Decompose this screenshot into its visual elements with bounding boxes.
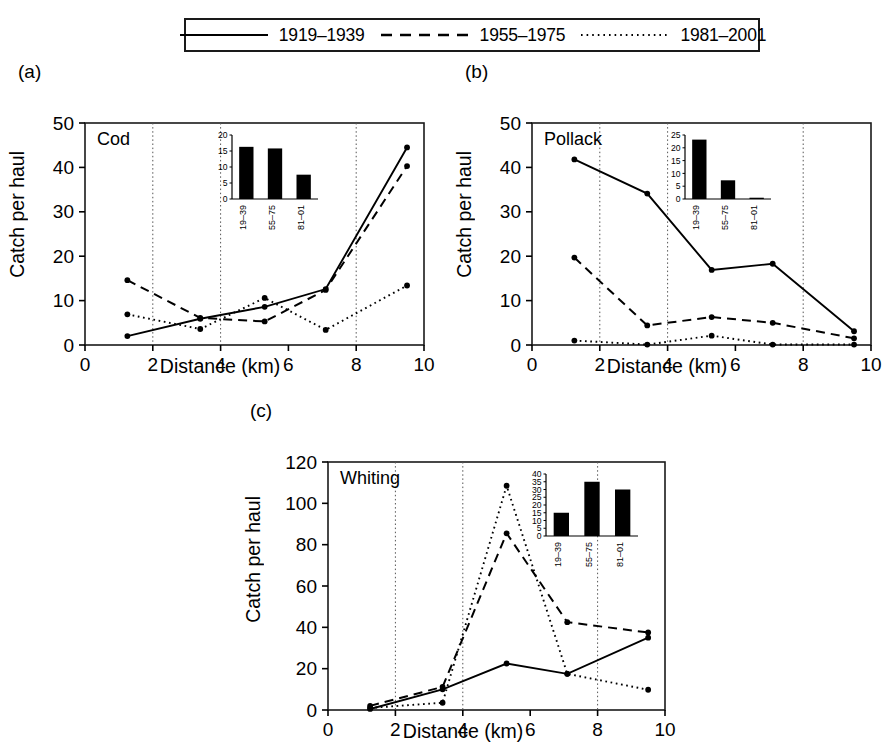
legend-entry-1919-1939: 1919–1939: [178, 25, 365, 46]
inset-category-label: 19–39: [691, 205, 701, 230]
data-point: [770, 320, 776, 326]
data-point: [404, 283, 410, 289]
dotted-line-icon: [579, 28, 671, 42]
data-point: [564, 671, 570, 677]
svg-b-frame: 024681001020304050Pollack051015202519–39…: [447, 55, 887, 385]
data-point: [645, 687, 651, 693]
inset-bar-chart: 051015202519–3955–7581–01: [671, 130, 771, 230]
chart-legend: 1919–1939 1955–1975 1981–2001: [184, 18, 760, 52]
data-point: [709, 333, 715, 339]
inset-bar: [692, 140, 706, 199]
legend-entry-1981-2001: 1981–2001: [579, 25, 766, 46]
data-point: [770, 261, 776, 267]
inset-ytick-10: 10: [671, 169, 681, 179]
data-point: [851, 342, 857, 348]
svg-c-frame: 0246810020406080100120Whiting05101520253…: [228, 392, 688, 753]
data-point: [404, 145, 410, 151]
data-point: [440, 700, 446, 706]
panel-b-pollack: (b) Catch per haul 024681001020304050Pol…: [447, 55, 887, 385]
inset-category-label: 55–75: [720, 205, 730, 230]
inset-ytick-10: 10: [218, 162, 228, 172]
data-point: [323, 287, 329, 293]
inset-ytick-0: 0: [223, 194, 228, 204]
data-point: [644, 191, 650, 197]
inset-category-label: 19–39: [553, 542, 563, 567]
panel-a-xlabel: Distance (km): [80, 355, 360, 378]
inset-bar: [297, 175, 311, 199]
data-point: [709, 267, 715, 273]
legend-label-1: 1919–1939: [279, 25, 365, 46]
panel-c-xlabel: Distance (km): [323, 720, 603, 743]
panel-a-cod: (a) Catch per haul 024681001020304050Cod…: [0, 55, 440, 385]
inset-bar: [721, 180, 735, 199]
data-point: [770, 342, 776, 348]
data-point: [262, 304, 268, 310]
data-point: [124, 311, 130, 317]
data-point: [440, 684, 446, 690]
data-point: [323, 327, 329, 333]
inset-ytick-5: 5: [223, 178, 228, 188]
data-point: [645, 635, 651, 641]
figure-canvas: 1919–1939 1955–1975 1981–2001 (a) Catch …: [0, 0, 895, 753]
data-point: [571, 338, 577, 344]
ytick-50: 50: [500, 113, 521, 134]
inset-bar: [554, 513, 569, 536]
data-point: [404, 163, 410, 169]
inset-bar: [239, 147, 253, 199]
inset-bar-chart: 0510152019–3955–7581–01: [218, 130, 318, 230]
data-point: [367, 705, 373, 711]
data-point: [571, 255, 577, 261]
inset-ytick-25: 25: [671, 130, 681, 140]
ytick-40: 40: [500, 157, 521, 178]
data-point: [644, 342, 650, 348]
ytick-120: 120: [285, 452, 317, 473]
series-line-1: [574, 159, 854, 331]
ytick-100: 100: [285, 493, 317, 514]
inset-category-label: 81–01: [615, 542, 625, 567]
inset-ytick-5: 5: [676, 181, 681, 191]
ytick-20: 20: [500, 246, 521, 267]
inset-bar-chart: 051015202530354019–3955–7581–01: [532, 469, 638, 567]
series-line-3: [370, 486, 648, 708]
inset-ytick-0: 0: [676, 194, 681, 204]
panel-b-xlabel: Distance (km): [527, 355, 807, 378]
inset-category-label: 55–75: [584, 542, 594, 567]
ytick-0: 0: [63, 335, 74, 356]
inset-ytick-15: 15: [218, 146, 228, 156]
ytick-30: 30: [500, 201, 521, 222]
xtick-10: 10: [860, 354, 881, 375]
data-point: [564, 619, 570, 625]
svg-a-frame: 024681001020304050Cod0510152019–3955–758…: [0, 55, 440, 385]
inset-ytick-40: 40: [532, 469, 542, 479]
data-point: [262, 295, 268, 301]
ytick-10: 10: [500, 290, 521, 311]
legend-label-3: 1981–2001: [680, 25, 766, 46]
inset-ytick-15: 15: [671, 156, 681, 166]
data-point: [504, 661, 510, 667]
inset-bar: [615, 490, 630, 537]
data-point: [645, 630, 651, 636]
inset-category-label: 19–39: [238, 205, 248, 230]
data-point: [851, 335, 857, 341]
data-point: [571, 157, 577, 163]
ytick-80: 80: [296, 534, 317, 555]
series-line-1: [370, 638, 648, 709]
ytick-30: 30: [53, 201, 74, 222]
inset-bar: [584, 482, 599, 536]
inset-bar: [268, 148, 282, 199]
data-point: [644, 323, 650, 329]
ytick-0: 0: [306, 700, 317, 721]
ytick-60: 60: [296, 576, 317, 597]
inset-bar: [750, 198, 764, 199]
data-point: [124, 277, 130, 283]
ytick-10: 10: [53, 290, 74, 311]
inset-category-label: 81–01: [749, 205, 759, 230]
xtick-10: 10: [413, 354, 434, 375]
data-point: [124, 333, 130, 339]
series-line-2: [370, 533, 648, 706]
species-label: Whiting: [340, 468, 400, 488]
data-point: [504, 530, 510, 536]
xtick-10: 10: [654, 719, 675, 740]
inset-ytick-20: 20: [218, 130, 228, 140]
data-point: [197, 315, 203, 321]
